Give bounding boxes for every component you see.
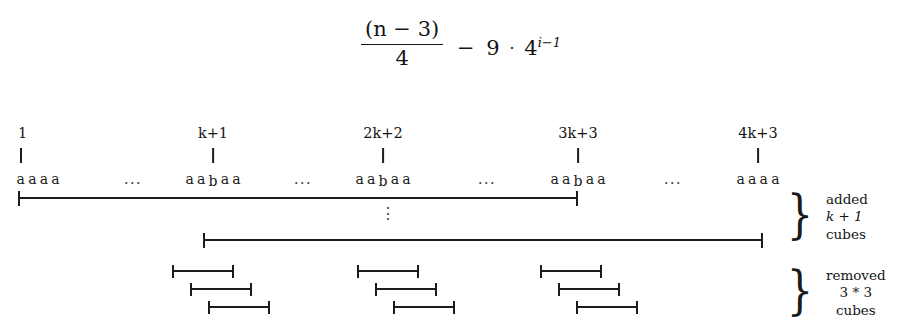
cube-letter: a [770,171,782,187]
bar-stem [18,197,578,199]
annotation-removed-line-3: cubes [826,302,886,319]
position-label-k-plus-1: k+1 [198,126,228,141]
cube-letter: a [50,171,62,187]
cube-letter: a [746,171,758,187]
multiplication-dot: · [506,38,517,58]
cube-letter: a [549,171,561,187]
bracket-end-cap-right [268,301,270,314]
power-exponent: i−1 [538,35,561,50]
power-base: 4 [524,36,537,60]
bracket-stem [576,306,638,308]
cube-letter-b: b [207,173,219,189]
cube-letter: a [231,171,243,187]
position-label-4k-plus-3: 4k+3 [738,126,777,141]
bar-end-cap-right [761,233,763,248]
cube-letter: a [195,171,207,187]
ellipsis-gap-1: ··· [124,176,142,190]
fraction-rule [361,44,443,46]
cube-letter: a [735,171,747,187]
fraction-denominator: 4 [361,46,443,71]
position-label-1: 1 [18,126,27,141]
bracket-stem [190,288,252,290]
bracket-end-cap-right [417,265,419,278]
vertical-ellipsis: ⋮ [380,206,396,222]
tick-mark-3k-plus-3 [577,148,579,163]
tick-mark-2k-plus-2 [382,148,384,163]
brace-glyph: } [787,188,813,240]
cube-sequence-2k-plus-2: aabaa [354,172,412,186]
bracket-stem [357,270,419,272]
fraction: (n − 3) 4 [361,18,443,71]
annotation-added-line-3: cubes [826,226,868,243]
cube-letter: a [27,171,39,187]
ellipsis-gap-3: ··· [478,176,496,190]
cube-letter: a [219,171,231,187]
cube-letter-b: b [572,173,584,189]
bar-end-cap-right [576,191,578,206]
cube-sequence-1: aaaa [15,172,61,186]
cube-letter-b: b [377,173,389,189]
figure-canvas: (n − 3) 4 − 9 · 4i−1 1 k+1 2k+2 3k+3 4k+… [0,0,920,334]
bracket-end-cap-right [435,283,437,296]
formula-expression: (n − 3) 4 − 9 · 4i−1 [0,18,920,71]
tick-mark-4k-plus-3 [757,148,759,163]
bracket-stem [172,270,234,272]
bracket-stem [208,306,270,308]
cube-letter: a [401,171,413,187]
bracket-end-cap-right [250,283,252,296]
annotation-removed-line-2: 3 * 3 [826,284,886,301]
tick-mark-1 [20,148,22,163]
cube-letter: a [38,171,50,187]
ellipsis-gap-2: ··· [294,176,312,190]
cube-letter: a [560,171,572,187]
bracket-end-cap-right [453,301,455,314]
brace-removed-icon: } [783,264,816,316]
bracket-stem [375,288,437,290]
coefficient: 9 [486,36,499,60]
cube-letter: a [584,171,596,187]
fraction-numerator: (n − 3) [361,18,443,43]
minus-operator: − [452,36,480,60]
cube-letter: a [365,171,377,187]
bracket-end-cap-right [600,265,602,278]
annotation-removed: removed 3 * 3 cubes [826,267,886,319]
brace-added-icon: } [783,188,816,240]
annotation-added-line-1: added [826,191,868,208]
cube-sequence-k-plus-1: aabaa [184,172,242,186]
tick-mark-k-plus-1 [212,148,214,163]
bar-stem [203,239,763,241]
cube-letter: a [596,171,608,187]
cube-letter: a [354,171,366,187]
bracket-stem [558,288,620,290]
position-label-3k-plus-3: 3k+3 [558,126,597,141]
cube-letter: a [15,171,27,187]
cube-sequence-4k-plus-3: aaaa [735,172,781,186]
bracket-end-cap-right [232,265,234,278]
bracket-end-cap-right [618,283,620,296]
cube-letter: a [389,171,401,187]
annotation-removed-line-1: removed [826,267,886,284]
cube-sequence-3k-plus-3: aabaa [549,172,607,186]
position-label-2k-plus-2: 2k+2 [363,126,402,141]
cube-letter: a [758,171,770,187]
bracket-stem [393,306,455,308]
bracket-stem [540,270,602,272]
annotation-added-line-2: k + 1 [826,208,868,225]
cube-letter: a [184,171,196,187]
ellipsis-gap-4: ··· [664,176,682,190]
annotation-added: added k + 1 cubes [826,191,868,243]
bracket-end-cap-right [636,301,638,314]
brace-glyph: } [787,264,813,316]
